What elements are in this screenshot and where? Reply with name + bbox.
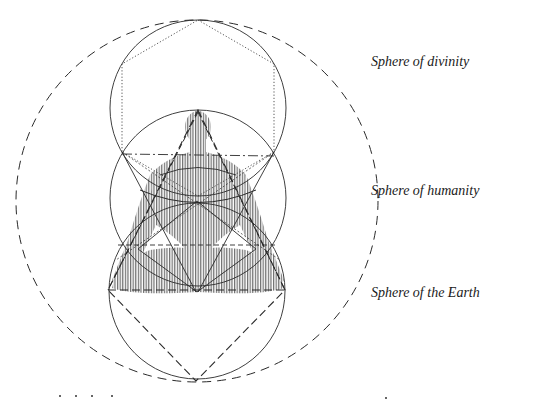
label-sphere-earth: Sphere of the Earth: [371, 285, 480, 301]
dot: [59, 395, 61, 397]
dot: [111, 395, 113, 397]
label-sphere-divinity: Sphere of divinity: [371, 54, 469, 70]
dot: [75, 395, 77, 397]
dot: [91, 395, 93, 397]
label-sphere-humanity: Sphere of humanity: [371, 183, 479, 199]
dot: [385, 397, 387, 399]
